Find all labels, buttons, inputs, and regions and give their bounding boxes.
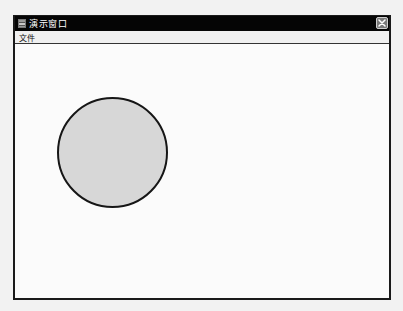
menu-bar: 文件 (15, 31, 389, 44)
close-button[interactable] (376, 17, 388, 29)
window-title: 演示窗口 (29, 17, 67, 30)
menu-file[interactable]: 文件 (15, 32, 39, 43)
close-icon (378, 19, 386, 27)
drawing-canvas[interactable] (15, 44, 389, 298)
circle-shape (57, 97, 168, 208)
app-window: 演示窗口 文件 (13, 15, 391, 300)
app-window-icon (18, 19, 26, 28)
title-bar[interactable]: 演示窗口 (15, 16, 389, 31)
